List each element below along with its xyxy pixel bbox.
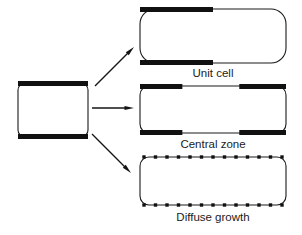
unit-cell-rod-outline — [140, 9, 286, 63]
diffuse-growth-rod-bottom-dot-5 — [200, 203, 203, 206]
diffuse-growth-rod-top-dot-4 — [188, 155, 191, 158]
unit-cell-caption: Unit cell — [193, 67, 234, 79]
diffuse-growth-rod-top-dot-7 — [223, 155, 226, 158]
diffuse-growth-rod-top-dot-9 — [246, 155, 249, 158]
panel-unit-cell: Unit cell — [140, 7, 286, 79]
diffuse-growth-rod-top-dot-1 — [154, 155, 157, 158]
panel-central-zone: Central zone — [140, 84, 286, 150]
arrow-to-diffuse-growth-line — [92, 134, 126, 168]
diffuse-growth-rod-top-dot-5 — [200, 155, 203, 158]
diffuse-growth-rod-bottom-dot-8 — [234, 203, 237, 206]
arrows-group — [92, 47, 134, 173]
diffuse-growth-rod-top-dot-2 — [165, 155, 168, 158]
diffuse-growth-rod-top-dot-8 — [234, 155, 237, 158]
diffuse-growth-rod-bottom-dot-7 — [223, 203, 226, 206]
diagram-canvas: Unit cellCentral zoneDiffuse growth — [0, 0, 302, 235]
central-zone-rod-bottom-bar-2 — [140, 130, 182, 135]
central-zone-rod-top-bar-1 — [239, 84, 286, 89]
arrow-to-unit-cell-line — [95, 52, 129, 86]
diffuse-growth-rod-bottom-dot-1 — [154, 203, 157, 206]
source-rod-top-bar-0 — [18, 81, 88, 86]
diffuse-growth-rod-top-dot-10 — [257, 155, 260, 158]
diffuse-growth-rod-bottom-dot-9 — [246, 203, 249, 206]
diffuse-growth-rod-top-dot-6 — [211, 155, 214, 158]
diffuse-growth-caption: Diffuse growth — [176, 211, 249, 223]
central-zone-rod-bottom-bar-3 — [239, 130, 286, 135]
diffuse-growth-rod-outline — [140, 157, 286, 205]
panels-group: Unit cellCentral zoneDiffuse growth — [140, 7, 286, 223]
diffuse-growth-rod-top-dot-0 — [142, 155, 145, 158]
diffuse-growth-rod-bottom-dot-2 — [165, 203, 168, 206]
unit-cell-rod-bottom-bar-1 — [140, 60, 213, 65]
source-rod-outline — [18, 83, 88, 137]
unit-cell-rod-top-bar-0 — [140, 7, 213, 12]
panel-diffuse-growth: Diffuse growth — [140, 155, 286, 223]
diffuse-growth-rod-bottom-dot-12 — [280, 203, 283, 206]
central-zone-caption: Central zone — [180, 138, 245, 150]
diffuse-growth-rod-bottom-dot-11 — [269, 203, 272, 206]
diffuse-growth-rod-top-dot-3 — [177, 155, 180, 158]
central-zone-rod-top-bar-0 — [140, 84, 182, 89]
diffuse-growth-rod-bottom-dot-10 — [257, 203, 260, 206]
diffuse-growth-rod-bottom-dot-0 — [142, 203, 145, 206]
diffuse-growth-rod-bottom-dot-3 — [177, 203, 180, 206]
diffuse-growth-rod-bottom-dot-4 — [188, 203, 191, 206]
diffuse-growth-rod-top-dot-11 — [269, 155, 272, 158]
diffuse-growth-rod-top-dot-12 — [280, 155, 283, 158]
source-rod-bottom-bar-1 — [18, 134, 88, 139]
schematic-figure: Unit cellCentral zoneDiffuse growth — [0, 0, 302, 235]
arrow-to-central-zone-head — [125, 106, 135, 110]
central-zone-rod-outline — [140, 86, 286, 133]
diffuse-growth-rod-bottom-dot-6 — [211, 203, 214, 206]
source-rod-group — [18, 81, 88, 139]
